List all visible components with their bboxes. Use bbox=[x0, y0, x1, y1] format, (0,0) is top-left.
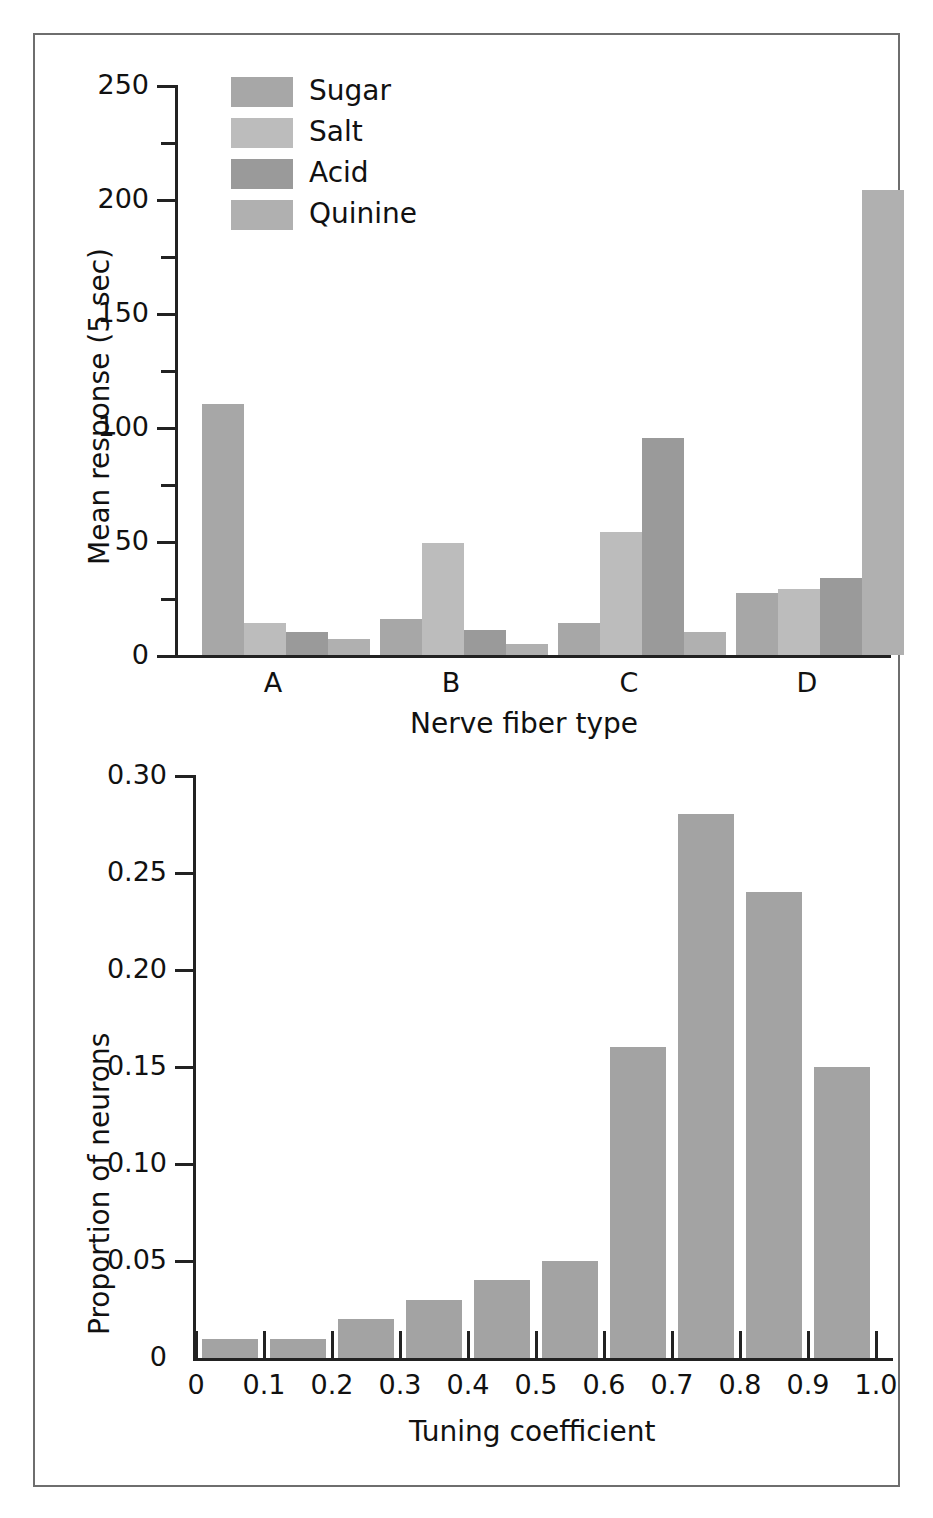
bottom-x-tick bbox=[399, 1331, 402, 1358]
top-y-tick-minor bbox=[161, 484, 177, 487]
bar-sugar-A bbox=[202, 404, 244, 655]
bottom-y-tick-label: 0.05 bbox=[53, 1246, 167, 1273]
bottom-x-tick bbox=[535, 1331, 538, 1358]
legend-label-acid: Acid bbox=[309, 156, 369, 189]
bottom-y-tick-label: 0.25 bbox=[53, 858, 167, 885]
hist-bar bbox=[542, 1261, 598, 1358]
bottom-x-tick bbox=[739, 1331, 742, 1358]
bar-sugar-C bbox=[558, 623, 600, 655]
bottom-y-tick bbox=[175, 969, 195, 972]
hist-bar bbox=[202, 1339, 258, 1358]
top-x-tick-label-c: C bbox=[594, 669, 664, 696]
bottom-y-tick bbox=[175, 775, 195, 778]
legend-label-quinine: Quinine bbox=[309, 197, 417, 230]
top-y-tick-major bbox=[157, 427, 177, 430]
bottom-x-tick-label: 0 bbox=[161, 1371, 231, 1398]
bar-acid-B bbox=[464, 630, 506, 655]
bottom-x-tick bbox=[807, 1331, 810, 1358]
bottom-x-tick-label: 0.2 bbox=[297, 1371, 367, 1398]
top-y-tick-label: 150 bbox=[75, 299, 149, 326]
top-y-tick-label: 250 bbox=[75, 71, 149, 98]
hist-bar bbox=[406, 1300, 462, 1358]
bar-salt-A bbox=[244, 623, 286, 655]
top-y-tick-major bbox=[157, 541, 177, 544]
bottom-y-tick-label: 0.10 bbox=[53, 1149, 167, 1176]
bottom-x-tick bbox=[603, 1331, 606, 1358]
top-y-axis-title: Mean response (5 sec) bbox=[83, 248, 116, 565]
figure-frame: Mean response (5 sec) 250 200 150 100 50… bbox=[33, 33, 900, 1487]
bottom-x-tick-label: 1.0 bbox=[841, 1371, 911, 1398]
legend-swatch-salt bbox=[231, 118, 293, 148]
bottom-y-tick-label: 0.30 bbox=[53, 761, 167, 788]
bottom-y-tick bbox=[175, 872, 195, 875]
bar-acid-D bbox=[820, 578, 862, 656]
top-y-tick-label: 200 bbox=[75, 185, 149, 212]
bar-salt-D bbox=[778, 589, 820, 655]
panel-tuning-coefficient: Proportion of neurons 0.30 0.25 0.20 0.1… bbox=[35, 735, 902, 1489]
top-y-tick-minor bbox=[161, 370, 177, 373]
bottom-x-tick-label: 0.9 bbox=[773, 1371, 843, 1398]
bar-acid-C bbox=[642, 438, 684, 655]
legend: Sugar Salt Acid Quinine bbox=[231, 75, 531, 240]
hist-bar bbox=[474, 1280, 530, 1358]
bottom-x-tick bbox=[671, 1331, 674, 1358]
bottom-y-tick-label: 0 bbox=[53, 1343, 167, 1370]
hist-bar bbox=[678, 814, 734, 1358]
panel-nerve-fiber-response: Mean response (5 sec) 250 200 150 100 50… bbox=[35, 35, 902, 735]
legend-label-salt: Salt bbox=[309, 115, 363, 148]
legend-label-sugar: Sugar bbox=[309, 74, 391, 107]
bottom-x-tick-label: 0.8 bbox=[705, 1371, 775, 1398]
bar-quinine-B bbox=[506, 644, 548, 655]
hist-bar bbox=[746, 892, 802, 1358]
top-y-tick-major bbox=[157, 199, 177, 202]
top-y-tick-minor bbox=[161, 142, 177, 145]
top-x-tick-label-d: D bbox=[772, 669, 842, 696]
bar-quinine-A bbox=[328, 639, 370, 655]
bottom-y-tick bbox=[175, 1163, 195, 1166]
bottom-y-tick-label: 0.15 bbox=[53, 1052, 167, 1079]
legend-swatch-quinine bbox=[231, 200, 293, 230]
bar-acid-A bbox=[286, 632, 328, 655]
bottom-x-tick-label: 0.7 bbox=[637, 1371, 707, 1398]
top-x-axis-line bbox=[175, 655, 891, 658]
hist-bar bbox=[338, 1319, 394, 1358]
bar-salt-C bbox=[600, 532, 642, 655]
bottom-x-tick bbox=[263, 1331, 266, 1358]
top-x-tick-label-a: A bbox=[238, 669, 308, 696]
bottom-x-tick bbox=[331, 1331, 334, 1358]
legend-swatch-sugar bbox=[231, 77, 293, 107]
top-y-tick-label: 50 bbox=[75, 527, 149, 554]
hist-bar bbox=[270, 1339, 326, 1358]
top-y-tick-label: 0 bbox=[75, 641, 149, 668]
bottom-y-tick bbox=[175, 1066, 195, 1069]
bottom-x-tick-label: 0.3 bbox=[365, 1371, 435, 1398]
bar-quinine-D bbox=[862, 190, 904, 655]
bar-quinine-C bbox=[684, 632, 726, 655]
legend-swatch-acid bbox=[231, 159, 293, 189]
bottom-x-tick-label: 0.6 bbox=[569, 1371, 639, 1398]
bottom-x-axis-title: Tuning coefficient bbox=[409, 1415, 656, 1448]
bottom-plot-area bbox=[196, 775, 876, 1358]
bottom-x-tick-label: 0.1 bbox=[229, 1371, 299, 1398]
top-y-tick-minor bbox=[161, 598, 177, 601]
top-y-tick-label: 100 bbox=[75, 413, 149, 440]
bottom-x-axis-line bbox=[193, 1358, 893, 1361]
top-x-tick-label-b: B bbox=[416, 669, 486, 696]
bottom-x-tick-label: 0.4 bbox=[433, 1371, 503, 1398]
hist-bar bbox=[814, 1067, 870, 1359]
bar-sugar-B bbox=[380, 619, 422, 656]
bottom-y-tick-label: 0.20 bbox=[53, 955, 167, 982]
bottom-x-tick bbox=[195, 1331, 198, 1358]
bar-sugar-D bbox=[736, 593, 778, 655]
bottom-x-tick bbox=[467, 1331, 470, 1358]
top-y-tick-major bbox=[157, 313, 177, 316]
hist-bar bbox=[610, 1047, 666, 1358]
bottom-x-tick bbox=[875, 1331, 878, 1358]
bar-salt-B bbox=[422, 543, 464, 655]
top-y-tick-major bbox=[157, 85, 177, 88]
top-y-tick-minor bbox=[161, 256, 177, 259]
bottom-x-tick-label: 0.5 bbox=[501, 1371, 571, 1398]
bottom-y-tick bbox=[175, 1260, 195, 1263]
top-y-tick-major bbox=[157, 655, 177, 658]
